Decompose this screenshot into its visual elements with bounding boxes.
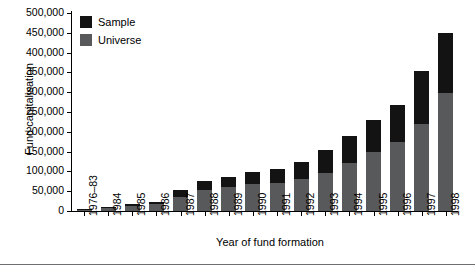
y-axis-tick xyxy=(67,72,72,73)
x-axis-title: Year of fund formation xyxy=(150,236,390,248)
x-axis-tick-label: 1994 xyxy=(353,152,364,216)
chart-figure: Fund capitalisation 500,000450,000400,00… xyxy=(0,0,475,273)
y-axis-tick-label: 100,000 xyxy=(0,165,64,175)
x-axis-tick xyxy=(229,212,230,216)
y-axis-tick-label: 300,000 xyxy=(0,86,64,96)
x-axis-tick-label: 1996 xyxy=(402,152,413,216)
legend-swatch-sample xyxy=(80,16,92,28)
y-axis-tick xyxy=(67,152,72,153)
x-axis-tick-label: 1976–83 xyxy=(88,152,99,216)
legend-item-sample: Sample xyxy=(80,14,141,29)
x-axis-tick-label: 1995 xyxy=(378,152,389,216)
bar-segment-sample xyxy=(366,120,381,152)
y-axis-tick-label: 200,000 xyxy=(0,126,64,136)
x-axis-tick-label: 1998 xyxy=(450,152,461,216)
legend-label-universe: Universe xyxy=(98,34,141,46)
y-axis-tick-label: 250,000 xyxy=(0,106,64,116)
x-axis-tick xyxy=(132,212,133,216)
x-axis-tick-label: 1987 xyxy=(185,152,196,216)
y-axis-tick-label: 400,000 xyxy=(0,47,64,57)
y-axis-tick-label: 0 xyxy=(0,205,64,215)
chart-legend: Sample Universe xyxy=(80,14,141,50)
y-axis-tick xyxy=(67,13,72,14)
x-axis-tick xyxy=(181,212,182,216)
x-axis-tick-label: 1986 xyxy=(160,152,171,216)
bar-segment-sample xyxy=(390,105,405,142)
x-axis-tick-label: 1991 xyxy=(281,152,292,216)
x-axis-tick-label: 1988 xyxy=(209,152,220,216)
x-axis-tick-label: 1984 xyxy=(112,152,123,216)
y-axis-tick-label: 450,000 xyxy=(0,27,64,37)
y-axis-tick xyxy=(67,171,72,172)
y-axis-tick-label: 150,000 xyxy=(0,146,64,156)
x-axis-tick xyxy=(446,212,447,216)
x-axis-tick xyxy=(156,212,157,216)
x-axis-tick xyxy=(108,212,109,216)
y-axis-tick-label: 50,000 xyxy=(0,185,64,195)
x-axis-tick xyxy=(374,212,375,216)
y-axis-tick-label: 500,000 xyxy=(0,7,64,17)
y-axis-tick-label: 350,000 xyxy=(0,66,64,76)
x-axis-tick xyxy=(349,212,350,216)
x-axis-tick-label: 1992 xyxy=(305,152,316,216)
x-axis-tick-label: 1989 xyxy=(233,152,244,216)
y-axis-tick xyxy=(67,33,72,34)
x-axis-tick-label: 1990 xyxy=(257,152,268,216)
legend-item-universe: Universe xyxy=(80,32,141,47)
y-axis-tick xyxy=(67,112,72,113)
x-axis-tick xyxy=(325,212,326,216)
bar-segment-sample xyxy=(414,71,429,124)
y-axis-tick xyxy=(67,211,72,212)
x-axis-tick-label: 1993 xyxy=(329,152,340,216)
legend-swatch-universe xyxy=(80,34,92,46)
y-axis-tick xyxy=(67,132,72,133)
y-axis-tick xyxy=(67,191,72,192)
x-axis-tick xyxy=(205,212,206,216)
legend-label-sample: Sample xyxy=(98,16,135,28)
footer-rule xyxy=(0,264,475,265)
x-axis-tick xyxy=(84,212,85,216)
x-axis-tick xyxy=(398,212,399,216)
x-axis-tick xyxy=(253,212,254,216)
x-axis-tick xyxy=(301,212,302,216)
x-axis-tick-label: 1985 xyxy=(136,152,147,216)
y-axis-tick xyxy=(67,53,72,54)
x-axis-tick-label: 1997 xyxy=(426,152,437,216)
y-axis-tick xyxy=(67,92,72,93)
x-axis-tick xyxy=(422,212,423,216)
bar-segment-sample xyxy=(438,33,453,93)
x-axis-tick xyxy=(277,212,278,216)
